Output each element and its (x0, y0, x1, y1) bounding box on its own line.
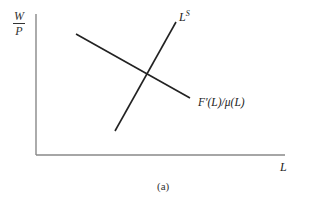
supply-curve-label: LS (179, 9, 190, 25)
x-axis-label: L (280, 160, 287, 175)
diagram-canvas (0, 0, 318, 199)
y-axis-label-denominator: P (13, 24, 25, 37)
y-axis-label-numerator: W (13, 10, 25, 24)
demand-curve-label: F′(L)/μ(L) (198, 96, 245, 108)
supply-label-base: L (179, 10, 186, 24)
supply-label-superscript: S (186, 9, 190, 18)
y-axis-label: W P (13, 10, 25, 37)
demand-curve (76, 34, 190, 98)
supply-curve (115, 22, 176, 131)
figure-caption: (a) (157, 180, 169, 192)
